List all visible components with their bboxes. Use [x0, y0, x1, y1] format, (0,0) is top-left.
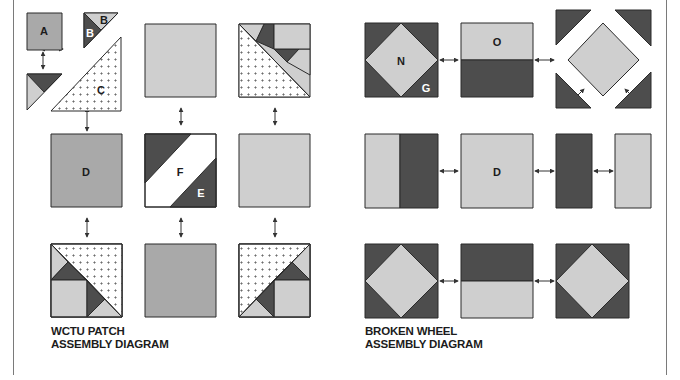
label-c: C: [97, 84, 105, 96]
broken-wheel-caption: BROKEN WHEEL ASSEMBLY DIAGRAM: [365, 325, 483, 351]
label-d-broken-wheel: D: [493, 166, 501, 178]
label-b-light: B: [100, 14, 108, 26]
label-f: F: [177, 166, 184, 178]
label-g: G: [422, 82, 431, 94]
label-d: D: [82, 166, 90, 178]
wctu-caption-line1: WCTU PATCH: [51, 325, 169, 338]
label-e: E: [197, 187, 204, 199]
assembly-diagrams: A B B C D F E N G O D: [0, 0, 680, 380]
broken-wheel-caption-line1: BROKEN WHEEL: [365, 325, 483, 338]
wctu-caption-line2: ASSEMBLY DIAGRAM: [51, 338, 169, 351]
label-a: A: [40, 25, 48, 37]
wctu-caption: WCTU PATCH ASSEMBLY DIAGRAM: [51, 325, 169, 351]
broken-wheel-caption-line2: ASSEMBLY DIAGRAM: [365, 338, 483, 351]
label-n: N: [397, 55, 405, 67]
label-o: O: [493, 36, 502, 48]
label-b-dark: B: [86, 27, 94, 39]
